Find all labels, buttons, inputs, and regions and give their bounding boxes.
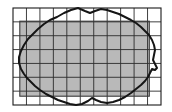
inner-approximating-rectangle	[20, 21, 150, 96]
figure-container: Irregular region overlaid on a rectangul…	[0, 0, 172, 112]
geometric-diagram-svg: Irregular region overlaid on a rectangul…	[0, 0, 172, 112]
